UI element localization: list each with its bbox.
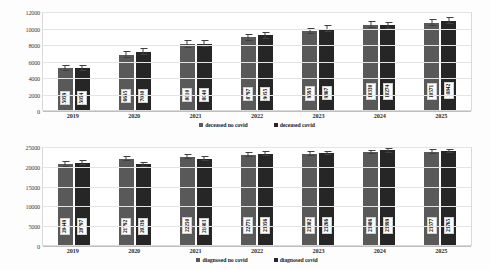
- legend-diagnosed: diagnosed no coviddiagnosed covid: [42, 257, 472, 263]
- bar[interactable]: 21792: [119, 159, 134, 245]
- bar-value-label: 23899: [383, 217, 393, 234]
- gridline: [43, 226, 471, 227]
- y-tick-label: 4000: [2, 75, 40, 82]
- error-bar: [248, 34, 249, 41]
- gridline: [43, 206, 471, 207]
- legend-item[interactable]: diagnosed no covid: [196, 257, 247, 263]
- bar-value-label: 10571: [427, 83, 437, 100]
- legend-item[interactable]: deceased no covid: [199, 122, 247, 128]
- bar[interactable]: 10571: [424, 23, 439, 110]
- error-bar: [326, 151, 327, 156]
- bar[interactable]: 23577: [424, 152, 439, 245]
- plot-area-diagnosed: 2044920797217922033622250218032277123056…: [42, 147, 472, 246]
- bar-value-text: 23899: [385, 219, 391, 232]
- bar-wrapper: 21803: [197, 159, 212, 245]
- legend-label: deceased covid: [280, 122, 315, 128]
- bar[interactable]: 8010: [180, 44, 195, 110]
- deceased-chart-panel: 020004000600080001000012000 505950546695…: [0, 0, 490, 135]
- legend-swatch-icon: [199, 123, 203, 127]
- bar[interactable]: 5054: [75, 68, 90, 110]
- bar[interactable]: 8040: [197, 44, 212, 110]
- bar[interactable]: 9595: [302, 31, 317, 110]
- chart-canvas: 020004000600080001000012000 505950546695…: [0, 0, 490, 270]
- y-axis-ticks-diagnosed: 0500010000150002000025000: [0, 147, 40, 246]
- gridline: [43, 29, 471, 30]
- error-bar: [248, 152, 249, 157]
- error-bar: [431, 19, 432, 26]
- bar-wrapper: 7080: [136, 52, 151, 110]
- bar-wrapper: 5059: [58, 68, 73, 110]
- legend-label: diagnosed covid: [280, 257, 318, 263]
- bar-value-text: 9867: [324, 88, 330, 98]
- bar-wrapper: 20449: [58, 164, 73, 245]
- gridline: [43, 187, 471, 188]
- bar-value-label: 6695: [121, 89, 131, 103]
- bar-value-label: 9867: [322, 86, 332, 100]
- legend-item[interactable]: diagnosed covid: [274, 257, 318, 263]
- bar[interactable]: 21803: [197, 159, 212, 245]
- error-bar: [187, 154, 188, 159]
- bar[interactable]: 20336: [136, 164, 151, 245]
- bar[interactable]: 8797: [241, 37, 256, 110]
- bar[interactable]: 10330: [363, 25, 378, 110]
- bar[interactable]: 22771: [241, 155, 256, 245]
- bar-wrapper: 20336: [136, 164, 151, 245]
- y-tick-label: 12000: [2, 9, 40, 16]
- y-tick-label: 2000: [2, 91, 40, 98]
- bar-wrapper: 8797: [241, 37, 256, 110]
- y-tick-label: 10000: [2, 25, 40, 32]
- error-bar: [387, 148, 388, 153]
- legend-label: deceased no covid: [205, 122, 247, 128]
- error-bar: [187, 40, 188, 47]
- bar-wrapper: 22771: [241, 155, 256, 245]
- error-bar: [370, 150, 371, 155]
- error-bar: [370, 21, 371, 28]
- error-bar: [82, 65, 83, 71]
- bar-wrapper: 23765: [441, 151, 456, 245]
- y-tick-label: 8000: [2, 42, 40, 49]
- bar-wrapper: 22250: [180, 157, 195, 245]
- bar-wrapper: 6695: [119, 55, 134, 110]
- error-bar: [265, 32, 266, 39]
- bar-value-text: 10330: [368, 85, 374, 98]
- bar[interactable]: 23765: [441, 151, 456, 245]
- bar[interactable]: 22250: [180, 157, 195, 245]
- bar-wrapper: 8040: [197, 44, 212, 110]
- y-tick-label: 5000: [2, 223, 40, 230]
- bar[interactable]: 7080: [136, 52, 151, 110]
- bar[interactable]: 10274: [380, 25, 395, 110]
- error-bar: [82, 160, 83, 166]
- legend-item[interactable]: deceased covid: [274, 122, 315, 128]
- bar[interactable]: 20449: [58, 164, 73, 245]
- bar[interactable]: 10842: [441, 21, 456, 110]
- error-bar: [265, 151, 266, 156]
- y-tick-label: 25000: [2, 144, 40, 151]
- legend-label: diagnosed no covid: [202, 257, 247, 263]
- plot-area-deceased: 5059505466957080801080408797905595959867…: [42, 12, 472, 111]
- bar-wrapper: 20797: [75, 163, 90, 245]
- bar-group: 2348623899: [349, 148, 410, 245]
- bar[interactable]: 6695: [119, 55, 134, 110]
- error-bar: [126, 156, 127, 162]
- gridline: [43, 12, 471, 13]
- bar-wrapper: 21792: [119, 159, 134, 245]
- bar-wrapper: 10842: [441, 21, 456, 110]
- bar[interactable]: 5059: [58, 68, 73, 110]
- bar[interactable]: 20797: [75, 163, 90, 245]
- bar-value-text: 9595: [307, 88, 313, 98]
- bar[interactable]: 9867: [319, 29, 334, 110]
- bar-value-label: 5054: [77, 91, 87, 105]
- bar-wrapper: 23577: [424, 152, 439, 245]
- gridline: [43, 95, 471, 96]
- gridline: [43, 45, 471, 46]
- bar-wrapper: 8010: [180, 44, 195, 110]
- bar-value-label: 10274: [383, 83, 393, 100]
- gridline: [43, 62, 471, 63]
- legend-swatch-icon: [274, 123, 278, 127]
- bar-value-text: 7080: [140, 91, 146, 101]
- bar[interactable]: 23899: [380, 150, 395, 245]
- bar-wrapper: 23899: [380, 150, 395, 245]
- bar-value-text: 10274: [385, 85, 391, 98]
- bar-wrapper: 10274: [380, 25, 395, 110]
- bar[interactable]: 9055: [258, 35, 273, 110]
